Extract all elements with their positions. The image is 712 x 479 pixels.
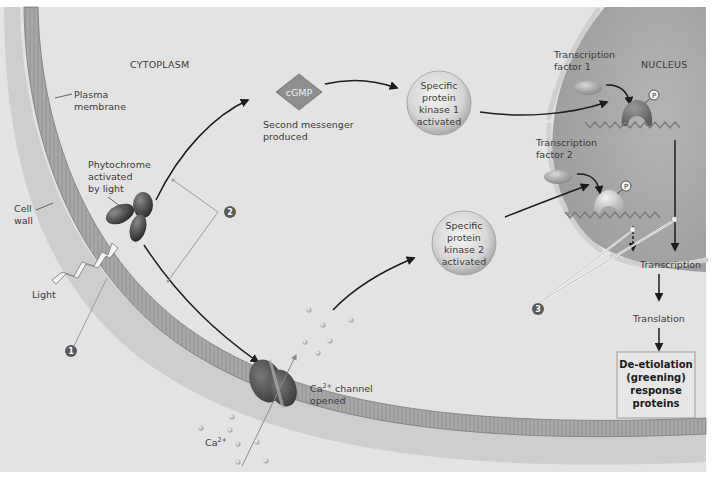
second-messenger-caption-line1: Second messenger [263, 119, 354, 130]
ca-channel-caption-line1: Ca2+ channel [310, 382, 373, 394]
nucleus-label: NUCLEUS [641, 59, 687, 70]
cytoplasm-label: CYTOPLASM [130, 59, 189, 70]
tf2-label-line1: Transcription [535, 137, 597, 148]
ca-channel-caption-line2: opened [310, 395, 346, 406]
plasma-membrane-label-line2: membrane [74, 101, 126, 112]
phytochrome-label-line1: Phytochrome [88, 159, 151, 170]
step-2-marker: 2 [224, 206, 236, 218]
svg-text:activated: activated [417, 116, 461, 127]
svg-text:Specific: Specific [421, 80, 458, 91]
svg-text:kinase 2: kinase 2 [444, 244, 484, 255]
svg-text:proteins: proteins [632, 398, 679, 409]
svg-text:1: 1 [68, 347, 74, 356]
cell-wall-label-line1: Cell [14, 203, 32, 214]
svg-text:(greening): (greening) [626, 372, 686, 383]
light-label: Light [32, 289, 56, 300]
translation-label: Translation [632, 313, 685, 324]
svg-text:2: 2 [227, 208, 233, 217]
svg-text:Specific: Specific [446, 220, 483, 231]
tf1-label-line1: Transcription [553, 49, 615, 60]
second-messenger-caption-line2: produced [263, 131, 308, 142]
step-1-marker: 1 [65, 345, 77, 357]
step-3-marker: 3 [532, 303, 544, 315]
tf1-label-line2: factor 1 [554, 61, 591, 72]
phosphate-2: P [624, 183, 628, 191]
plasma-membrane-label-line1: Plasma [74, 89, 108, 100]
svg-text:3: 3 [535, 305, 541, 314]
svg-text:De-etiolation: De-etiolation [619, 359, 692, 370]
response-proteins-box: De-etiolation (greening) response protei… [617, 352, 695, 418]
phytochrome-label-line2: activated [88, 171, 132, 182]
tf2-label-line2: factor 2 [536, 149, 573, 160]
cgmp-label: cGMP [286, 87, 313, 98]
protein-kinase-1: Specific protein kinase 1 activated [407, 71, 471, 135]
svg-text:kinase 1: kinase 1 [419, 104, 459, 115]
signal-transduction-diagram: CYTOPLASM NUCLEUS Plasma membrane Cell w… [0, 0, 712, 479]
phosphate-1: P [652, 92, 656, 100]
svg-text:protein: protein [447, 232, 481, 243]
svg-text:protein: protein [422, 92, 456, 103]
svg-text:activated: activated [442, 256, 486, 267]
cell-wall-label-line2: wall [14, 215, 33, 226]
phytochrome-label-line3: by light [88, 183, 124, 194]
transcription-factor-2-icon [544, 170, 572, 184]
protein-kinase-2: Specific protein kinase 2 activated [432, 211, 496, 275]
transcription-label: Transcription [639, 259, 701, 270]
svg-text:response: response [630, 385, 682, 396]
transcription-factor-1-icon [574, 81, 602, 95]
